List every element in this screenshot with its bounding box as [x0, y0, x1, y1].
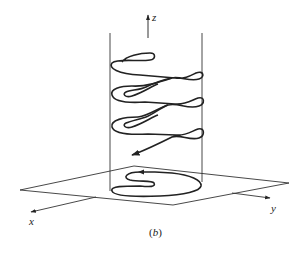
z-axis-label: z: [152, 12, 156, 23]
y-axis-label: y: [271, 203, 276, 214]
helix-top-hook: [111, 53, 203, 86]
x-axis: [31, 197, 96, 212]
helix-cylinder-diagram: [0, 0, 305, 256]
helix-descent-arrow: [132, 154, 135, 155]
helix-coil-3-inner-loop: [124, 105, 168, 128]
caption-close-paren: ): [158, 226, 162, 238]
helix-coil-2: [112, 86, 204, 117]
helix-base-loop: [112, 172, 201, 196]
figure-caption: (b): [149, 227, 162, 238]
y-axis: [232, 193, 270, 198]
base-loop-arrowhead: [138, 170, 144, 175]
x-axis-label: x: [29, 216, 34, 227]
